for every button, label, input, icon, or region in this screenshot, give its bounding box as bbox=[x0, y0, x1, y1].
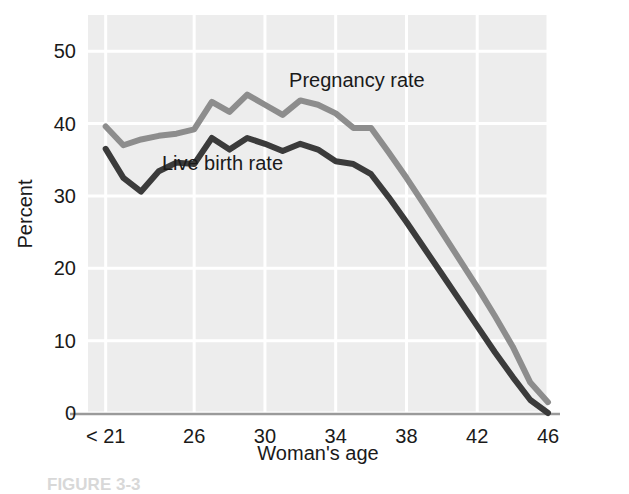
line-chart: < 21263034384246 01020304050 Woman's age… bbox=[0, 0, 629, 494]
figure-caption-group: FIGURE 3-3 bbox=[47, 475, 141, 494]
x-tick-label: 42 bbox=[466, 425, 488, 447]
figure-container: < 21263034384246 01020304050 Woman's age… bbox=[0, 0, 629, 494]
x-tick-label: < 21 bbox=[86, 425, 125, 447]
x-tick-label: 46 bbox=[537, 425, 559, 447]
y-tick-label: 50 bbox=[54, 40, 76, 62]
y-tick-label: 30 bbox=[54, 185, 76, 207]
x-axis-title: Woman's age bbox=[257, 442, 378, 464]
y-axis-title: Percent bbox=[14, 179, 36, 248]
series-label-2: Live birth rate bbox=[162, 152, 283, 174]
x-tick-label: 38 bbox=[395, 425, 417, 447]
series-label-1: Pregnancy rate bbox=[289, 69, 425, 91]
x-tick-label: 26 bbox=[183, 425, 205, 447]
y-tick-label: 40 bbox=[54, 113, 76, 135]
y-tick-label: 10 bbox=[54, 330, 76, 352]
y-axis-tick-labels: 01020304050 bbox=[54, 40, 76, 424]
y-tick-label: 0 bbox=[65, 402, 76, 424]
figure-caption: FIGURE 3-3 bbox=[47, 475, 141, 494]
y-tick-label: 20 bbox=[54, 257, 76, 279]
